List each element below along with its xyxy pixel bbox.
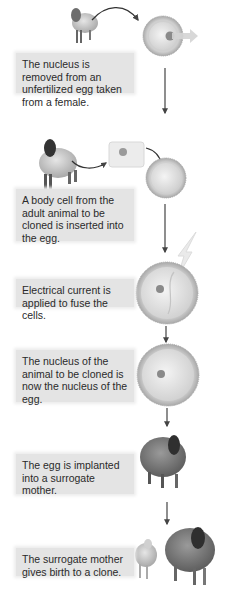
sheep-icon-donor-female [71,8,98,43]
step-2-label: A body cell from the adult animal to be … [16,189,134,241]
egg-cell-icon-fusion [136,262,198,324]
egg-cell-icon-nucleus-removal [143,16,198,56]
egg-cell-icon-new-nucleus [137,344,199,406]
step-5-label: The egg is implanted into a surrogate mo… [16,454,134,494]
sheep-icon-surrogate-mother [140,435,186,488]
step-1-label: The nucleus is removed from an unfertili… [16,53,134,93]
egg-cell-icon-insertion [146,158,186,198]
body-cell-icon [109,142,144,167]
step-4-label: The nucleus of the animal to be cloned i… [16,350,134,402]
sheep-icon-donor-adult [39,139,77,189]
lamb-icon-clone [135,539,157,579]
sheep-icon-surrogate-mother-after-birth [165,527,215,585]
step-3-label: Electrical current is applied to fuse th… [16,279,134,307]
arrow-icon [72,161,106,168]
arrow-icon [92,8,138,20]
step-6-label: The surrogate mother gives birth to a cl… [16,548,134,576]
